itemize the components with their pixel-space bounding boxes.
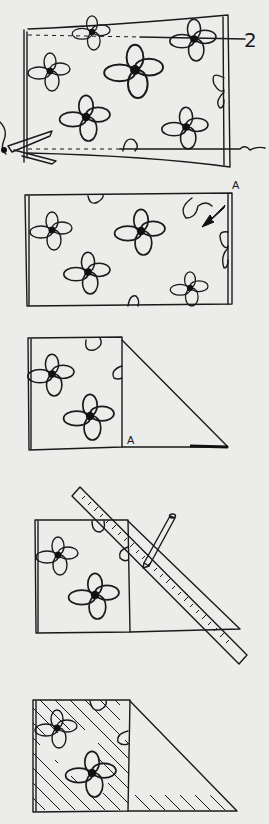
scissors-icon: [0, 122, 56, 164]
arrow-icon: [202, 205, 225, 227]
thread-marker-label: 2: [244, 28, 257, 52]
flower: [28, 53, 70, 91]
corner-a-label: A: [127, 434, 135, 446]
step-5-hatched-result: [0, 690, 269, 824]
flower: [162, 107, 208, 149]
step-2-fold-corner: A: [0, 170, 269, 310]
step-3-folded-triangle: A: [0, 330, 269, 470]
flower: [72, 16, 110, 50]
hatching: [0, 700, 225, 810]
step-4-mark-with-ruler: [0, 480, 269, 640]
flower: [170, 19, 216, 61]
corner-a-label: A: [232, 179, 240, 191]
flower: [60, 95, 110, 141]
flower: [104, 45, 163, 98]
step-1-cut-fabric: 2: [0, 0, 269, 175]
fabric-folding-illustration: 2 A: [0, 0, 269, 824]
